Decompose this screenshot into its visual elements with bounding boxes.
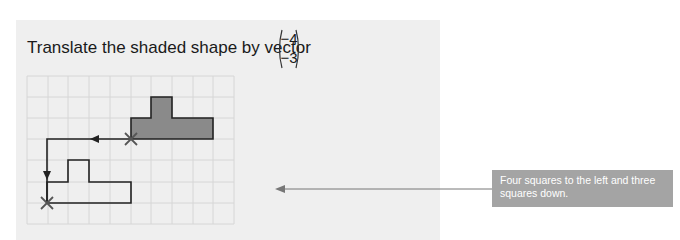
down-arrowhead-icon — [43, 171, 51, 180]
explanation-callout: Four squares to the left and three squar… — [492, 170, 673, 207]
original-shaded-shape — [131, 97, 213, 139]
left-arrowhead-icon — [90, 135, 99, 143]
callout-pointer-arrowhead-icon — [275, 185, 285, 193]
